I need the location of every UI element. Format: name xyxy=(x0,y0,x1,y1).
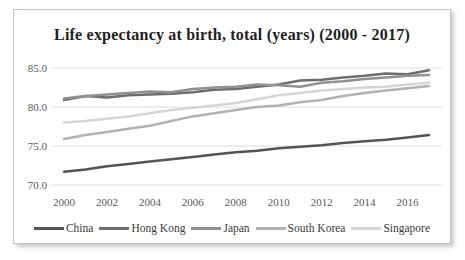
y-tick-label: 70.0 xyxy=(28,179,48,191)
legend-item-japan: Japan xyxy=(191,222,249,234)
legend-label-china: China xyxy=(66,222,93,234)
legend-swatch-japan xyxy=(191,227,221,230)
x-tick-label: 2002 xyxy=(96,196,118,208)
y-tick-label: 85.0 xyxy=(28,62,48,74)
line-china xyxy=(64,135,429,172)
legend-swatch-hong-kong xyxy=(99,227,129,230)
legend-label-singapore: Singapore xyxy=(383,222,430,234)
chart-svg: 85.080.075.070.0200020022004200620082010… xyxy=(14,10,452,245)
x-tick-label: 2012 xyxy=(311,196,333,208)
page-background: { "chart_data": { "type": "line", "title… xyxy=(0,0,465,260)
x-tick-label: 2000 xyxy=(53,196,76,208)
x-tick-label: 2004 xyxy=(139,196,162,208)
x-tick-label: 2010 xyxy=(268,196,291,208)
legend-swatch-china xyxy=(34,227,64,230)
x-tick-label: 2016 xyxy=(397,196,420,208)
legend-item-china: China xyxy=(34,222,93,234)
y-tick-label: 75.0 xyxy=(28,140,48,152)
legend-label-hong-kong: Hong Kong xyxy=(131,222,185,234)
legend-swatch-south-korea xyxy=(256,227,286,230)
x-tick-label: 2008 xyxy=(225,196,248,208)
x-tick-label: 2006 xyxy=(182,196,205,208)
chart-card: 85.080.075.070.0200020022004200620082010… xyxy=(13,9,451,244)
legend-swatch-singapore xyxy=(351,227,381,230)
legend-label-south-korea: South Korea xyxy=(288,222,346,234)
legend-item-hong-kong: Hong Kong xyxy=(99,222,185,234)
legend-item-singapore: Singapore xyxy=(351,222,430,234)
legend: ChinaHong KongJapanSouth KoreaSingapore xyxy=(14,222,450,234)
legend-item-south-korea: South Korea xyxy=(256,222,346,234)
chart-title: Life expectancy at birth, total (years) … xyxy=(14,26,450,44)
legend-label-japan: Japan xyxy=(223,222,249,234)
x-tick-label: 2014 xyxy=(354,196,377,208)
y-tick-label: 80.0 xyxy=(28,101,48,113)
